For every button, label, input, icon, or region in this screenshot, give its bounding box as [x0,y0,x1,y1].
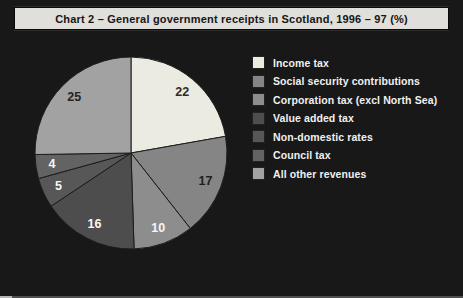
pie-value-label: 4 [49,157,56,171]
legend-item: All other revenues [252,167,437,180]
pie-value-label: 17 [198,174,212,188]
legend-label: Social security contributions [273,75,420,87]
pie-value-label: 10 [151,221,165,235]
legend-item: Value added tax [252,112,437,125]
pie-value-label: 16 [88,217,102,231]
legend: Income taxSocial security contributionsC… [252,56,437,186]
legend-swatch [252,130,265,143]
legend-swatch [252,93,265,106]
legend-item: Non-domestic rates [252,130,437,143]
legend-label: Income tax [273,57,329,69]
pie-value-label: 25 [67,90,81,104]
legend-label: Corporation tax (excl North Sea) [273,94,437,106]
legend-item: Council tax [252,149,437,162]
legend-swatch [252,149,265,162]
legend-label: Non-domestic rates [273,131,373,143]
chart-panel: Chart 2 – General government receipts in… [0,0,463,298]
legend-swatch [252,75,265,88]
legend-swatch [252,112,265,125]
legend-item: Income tax [252,56,437,69]
legend-label: Council tax [273,149,331,161]
legend-item: Corporation tax (excl North Sea) [252,93,437,106]
pie-slice-7 [35,57,131,155]
legend-swatch [252,167,265,180]
pie-value-label: 5 [55,179,62,193]
legend-label: Value added tax [273,112,354,124]
legend-label: All other revenues [273,168,366,180]
pie-value-label: 22 [175,85,189,99]
legend-swatch [252,56,265,69]
legend-item: Social security contributions [252,75,437,88]
